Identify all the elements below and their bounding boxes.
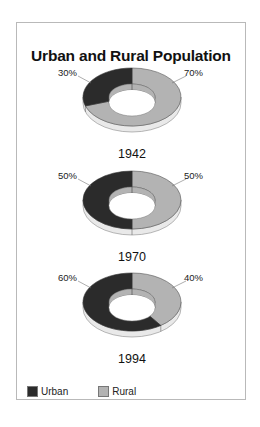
donut-1942: 30%70%1942 <box>58 67 204 161</box>
urban-percent-label: 50% <box>58 170 78 181</box>
donut-1994: 60%40%1994 <box>58 272 204 366</box>
rural-percent-label: 70% <box>184 67 204 78</box>
rural-percent-label: 40% <box>184 272 204 283</box>
urban-percent-label: 60% <box>58 272 78 283</box>
year-label: 1942 <box>118 147 146 161</box>
urban-percent-label: 30% <box>58 67 78 78</box>
rural-percent-label: 50% <box>184 170 204 181</box>
donut-1970: 50%50%1970 <box>58 170 204 264</box>
year-label: 1994 <box>118 352 146 366</box>
donut-charts: 30%70%194250%50%197060%40%1994 <box>0 0 260 427</box>
year-label: 1970 <box>118 250 146 264</box>
